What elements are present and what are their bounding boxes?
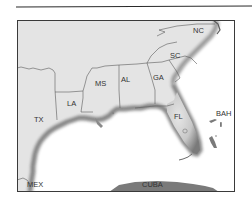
- label-bah: BAH: [216, 109, 231, 118]
- label-fl: FL: [174, 112, 183, 121]
- mobile-bay: [112, 112, 114, 114]
- label-cuba: CUBA: [142, 180, 163, 189]
- label-ms: MS: [95, 79, 106, 88]
- label-la: LA: [67, 99, 76, 108]
- label-mex: MEX: [27, 180, 43, 189]
- label-ga: GA: [153, 73, 164, 82]
- top-rule-divider: [16, 5, 252, 7]
- map-frame: NC SC GA AL MS LA TX FL BAH MEX CUBA: [17, 20, 235, 192]
- label-nc: NC: [193, 26, 204, 35]
- southeast-us-map: NC SC GA AL MS LA TX FL BAH MEX CUBA: [17, 20, 235, 192]
- label-tx: TX: [34, 115, 44, 124]
- label-sc: SC: [170, 51, 181, 60]
- label-al: AL: [121, 75, 130, 84]
